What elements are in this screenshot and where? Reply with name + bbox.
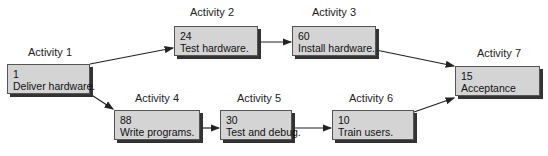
activity-2-duration: 24 [180,30,252,42]
activity-2-box: 24 Test hardware. [174,26,258,56]
activity-7-box: 15 Acceptance [455,66,540,96]
activity-5-name: Test and debug. [226,126,286,138]
activity-2-label: Activity 2 [190,6,234,18]
activity-4-box: 88 Write programs. [114,110,200,140]
arrow-1-to-2 [90,48,173,64]
activity-6-box: 10 Train users. [332,110,414,140]
activity-5-label: Activity 5 [237,92,281,104]
activity-1-label: Activity 1 [28,46,72,58]
arrow-6-to-7 [414,98,454,112]
activity-6-duration: 10 [338,114,408,126]
activity-5-duration: 30 [226,114,286,126]
activity-7-name: Acceptance [461,82,534,94]
arrow-3-to-7 [376,50,454,66]
activity-1-name: Deliver hardware. [13,80,84,92]
activity-1-box: 1 Deliver hardware. [7,64,90,94]
activity-1-duration: 1 [13,68,84,80]
activity-5-box: 30 Test and debug. [220,110,292,140]
activity-4-label: Activity 4 [135,92,179,104]
activity-7-duration: 15 [461,70,534,82]
activity-7-label: Activity 7 [477,47,521,59]
activity-3-box: 60 Install hardware. [292,26,376,56]
activity-3-label: Activity 3 [312,6,356,18]
activity-3-name: Install hardware. [298,42,370,54]
activity-3-duration: 60 [298,30,370,42]
activity-4-duration: 88 [120,114,194,126]
activity-2-name: Test hardware. [180,42,252,54]
arrow-1-to-4 [90,94,113,109]
activity-6-name: Train users. [338,126,408,138]
activity-4-name: Write programs. [120,126,194,138]
activity-6-label: Activity 6 [349,92,393,104]
